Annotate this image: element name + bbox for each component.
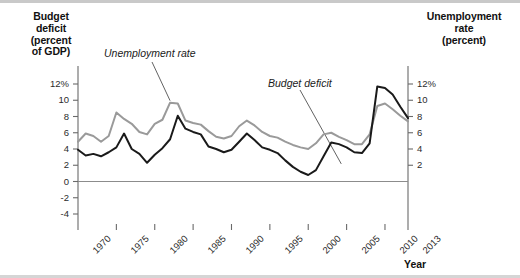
left-axis-tick-label: 4 (35, 143, 69, 154)
left-axis-tick-label: -4 (35, 208, 69, 219)
left-axis-tick-label: 8 (35, 111, 69, 122)
left-axis-ticks (73, 84, 78, 214)
right-axis-tick-label: 6 (417, 127, 451, 138)
left-axis-tick-label: 10 (35, 94, 69, 105)
annotation-leader-lines (152, 62, 341, 164)
left-axis-tick-label: 0 (35, 176, 69, 187)
series-paths (78, 86, 408, 175)
x-axis-ticks (78, 224, 408, 230)
left-axis-tick-label: 6 (35, 127, 69, 138)
left-axis-tick-label: 12% (35, 78, 69, 89)
left-axis-tick-label: -2 (35, 192, 69, 203)
right-axis-tick-label: 8 (417, 111, 451, 122)
right-axis-tick-label: 4 (417, 143, 451, 154)
left-axis-tick-label: 2 (35, 159, 69, 170)
right-axis-tick-label: 10 (417, 94, 451, 105)
chart-figure: Budget deficit (percent of GDP) Unemploy… (0, 0, 520, 278)
right-axis-tick-label: 12% (417, 78, 451, 89)
right-axis-ticks (408, 84, 413, 165)
right-axis-tick-label: 2 (417, 159, 451, 170)
